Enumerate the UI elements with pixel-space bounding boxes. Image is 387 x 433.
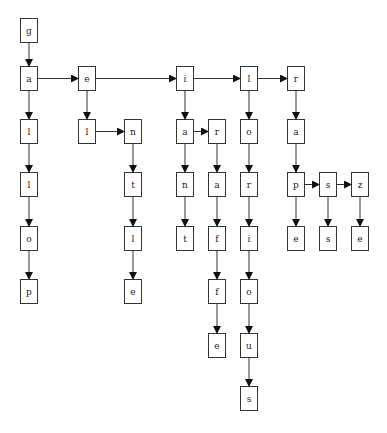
trie-node: e: [208, 333, 226, 358]
trie-node: o: [240, 279, 258, 304]
trie-diagram: gallopelntleiantraffeloriousrapessze: [0, 0, 387, 433]
trie-node: s: [319, 172, 337, 197]
trie-node: n: [176, 172, 194, 197]
trie-node: e: [287, 226, 305, 251]
trie-node: z: [351, 172, 369, 197]
trie-node: f: [208, 226, 226, 251]
trie-node: e: [124, 279, 142, 304]
trie-node: e: [351, 226, 369, 251]
trie-node: f: [208, 279, 226, 304]
trie-node: o: [20, 226, 38, 251]
trie-node: e: [78, 66, 96, 91]
trie-node: p: [287, 172, 305, 197]
trie-node: s: [319, 226, 337, 251]
trie-node: t: [176, 226, 194, 251]
trie-node: u: [240, 333, 258, 358]
trie-node: g: [20, 18, 38, 43]
edge-layer: [0, 0, 387, 433]
trie-node: a: [20, 66, 38, 91]
trie-node: l: [240, 66, 258, 91]
trie-node: r: [240, 172, 258, 197]
trie-node: o: [240, 119, 258, 144]
trie-node: r: [208, 119, 226, 144]
trie-node: a: [208, 172, 226, 197]
trie-node: i: [240, 226, 258, 251]
trie-node: a: [287, 119, 305, 144]
trie-node: p: [20, 279, 38, 304]
trie-node: l: [20, 172, 38, 197]
trie-node: l: [124, 226, 142, 251]
trie-node: r: [287, 66, 305, 91]
trie-node: l: [20, 119, 38, 144]
trie-node: l: [78, 119, 96, 144]
trie-node: i: [176, 66, 194, 91]
trie-node: n: [124, 119, 142, 144]
trie-node: t: [124, 172, 142, 197]
trie-node: s: [240, 386, 258, 411]
trie-node: a: [176, 119, 194, 144]
